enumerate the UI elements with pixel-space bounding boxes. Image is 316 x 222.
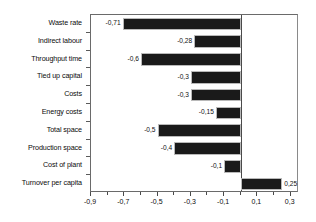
bar [224,160,241,173]
y-axis-tick [86,50,90,51]
category-label: Cost of plant [43,160,82,170]
bar-row: -0,4 [91,140,297,158]
plot-area: -0,71-0,28-0,6-0,3-0,3-0,15-0,5-0,4-0,10… [90,14,298,192]
bar-value-label: 0,25 [284,179,297,189]
y-axis-tick [86,67,90,68]
x-axis-minor-tick [240,192,241,195]
bar-value-label: -0,28 [177,36,192,46]
bar-value-label: -0,3 [177,72,188,82]
category-label: Energy costs [42,107,82,117]
bar-row: -0,5 [91,122,297,140]
bar [191,89,241,102]
x-axis-tick [157,192,158,196]
bar-row: -0,15 [91,104,297,122]
x-axis-tick [90,192,91,196]
y-axis-tick [86,103,90,104]
x-axis-tick-label: -0,3 [184,198,196,205]
category-label: Indirect labour [38,36,82,46]
x-axis-tick-label: -0,5 [151,198,163,205]
bar [216,107,241,120]
x-axis-tick [223,192,224,196]
x-axis-tick [123,192,124,196]
y-axis-tick [86,174,90,175]
category-label: Turnover per capita [22,178,82,188]
y-axis-tick [86,32,90,33]
x-axis-minor-tick [173,192,174,195]
y-axis-tick [86,139,90,140]
bar-value-label: -0,3 [177,90,188,100]
bar [241,178,283,191]
x-axis-tick [256,192,257,196]
x-axis-tick-label: -0,7 [117,198,129,205]
bar-row: -0,71 [91,15,297,33]
category-label: Waste rate [49,18,82,28]
bar-value-label: -0,4 [161,143,172,153]
bar [194,35,241,48]
category-label: Total space [47,125,82,135]
bar-row: -0,28 [91,33,297,51]
bar-value-label: -0,1 [211,161,222,171]
bar [174,142,241,155]
x-axis-minor-tick [273,192,274,195]
y-axis-tick [86,85,90,86]
bar-value-label: -0,15 [199,107,214,117]
bar-row: -0,3 [91,68,297,86]
x-axis-minor-tick [140,192,141,195]
x-axis-tick [190,192,191,196]
x-axis-minor-tick [107,192,108,195]
x-axis-tick-label: -0,9 [84,198,96,205]
category-label: Throughput time [31,54,82,64]
y-axis-tick [86,121,90,122]
bar [158,124,241,137]
y-axis-tick [86,156,90,157]
bar-value-label: -0,71 [106,18,121,28]
category-axis-labels: Waste rateIndirect labourThroughput time… [0,14,86,192]
category-label: Production space [28,143,82,153]
bar [141,53,241,66]
bar-value-label: -0,5 [144,125,155,135]
bar-row: 0,25 [91,175,297,193]
x-axis-tick-label: 0,3 [285,198,295,205]
x-axis-minor-tick [206,192,207,195]
x-axis-tick-label: -0,1 [217,198,229,205]
bar-value-label: -0,6 [128,54,139,64]
bar-row: -0,6 [91,51,297,69]
bar-row: -0,1 [91,157,297,175]
bar [191,71,241,84]
x-axis-tick-label: 0,1 [252,198,262,205]
x-axis-tick [290,192,291,196]
bar-chart: Waste rateIndirect labourThroughput time… [0,0,316,222]
category-label: Tied up capital [37,71,82,81]
bar [123,18,241,31]
category-label: Costs [64,89,82,99]
bar-row: -0,3 [91,86,297,104]
